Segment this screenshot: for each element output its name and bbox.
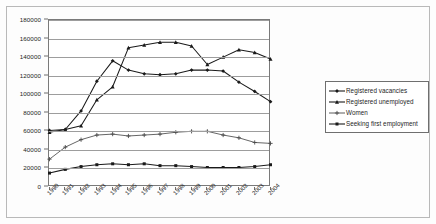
legend-item-label: Women: [346, 108, 368, 118]
legend-item-label: Seeking first employment: [346, 119, 418, 129]
gridline: [49, 76, 269, 77]
y-axis-tick-label: 180000: [20, 16, 41, 23]
data-point-plus: [142, 133, 146, 137]
legend-marker-triangle-icon: [328, 97, 346, 107]
gridline: [49, 94, 269, 95]
gridline: [49, 150, 269, 151]
data-point-diamond: [205, 68, 209, 72]
gridline: [49, 168, 269, 169]
data-point-square: [48, 172, 51, 175]
y-axis-tick-label: 60000: [23, 127, 41, 134]
data-point-square: [95, 163, 98, 166]
chart-figure: 1800001600001400001200001000008000060000…: [0, 0, 436, 224]
y-axis-tick-label: 20000: [23, 164, 41, 171]
legend-marker-square-icon: [328, 119, 346, 129]
data-point-square: [336, 122, 339, 125]
series-1: [48, 59, 273, 132]
legend-item[interactable]: Seeking first employment: [328, 118, 425, 129]
series-2: [48, 40, 273, 134]
data-point-plus: [221, 133, 225, 137]
x-axis: 1990199119921993199419951996199719981999…: [48, 187, 270, 221]
data-point-square: [143, 162, 146, 165]
legend-item-label: Registered vacancies: [346, 86, 407, 96]
gridline: [49, 20, 269, 21]
legend-item[interactable]: Registered vacancies: [328, 85, 425, 96]
legend-marker-diamond-icon: [328, 86, 346, 96]
y-axis-tick-label: 80000: [23, 108, 41, 115]
y-axis-tick-label: 160000: [20, 34, 41, 41]
data-point-plus: [95, 133, 99, 137]
data-point-square: [269, 163, 272, 166]
plot-area: [48, 19, 270, 186]
chart-legend: Registered vacanciesRegistered unemploye…: [325, 81, 429, 133]
gridline: [49, 131, 269, 132]
data-point-square: [127, 163, 130, 166]
y-axis-tick-label: 40000: [23, 145, 41, 152]
series-3: [47, 129, 272, 161]
y-axis-tick-label: 100000: [20, 90, 41, 97]
legend-item-label: Registered unemployed: [346, 97, 414, 107]
data-point-plus: [237, 136, 241, 140]
data-point-plus: [268, 141, 272, 145]
legend-item[interactable]: Registered unemployed: [328, 96, 425, 107]
data-point-diamond: [190, 68, 194, 72]
data-point-diamond: [335, 89, 339, 93]
data-point-plus: [335, 110, 339, 114]
data-point-triangle: [111, 85, 115, 89]
legend-marker-plus-icon: [328, 108, 346, 118]
data-point-plus: [79, 138, 83, 142]
y-axis-tick-label: 120000: [20, 71, 41, 78]
gridline: [49, 57, 269, 58]
legend-item[interactable]: Women: [328, 107, 425, 118]
series-layer: [49, 20, 271, 187]
series-line: [50, 61, 271, 131]
data-point-plus: [253, 140, 257, 144]
data-point-plus: [158, 132, 162, 136]
y-axis: 1800001600001400001200001000008000060000…: [0, 0, 48, 190]
data-point-plus: [111, 132, 115, 136]
y-axis-tick-label: 0: [37, 183, 41, 190]
data-point-plus: [126, 134, 130, 138]
data-point-square: [111, 162, 114, 165]
gridline: [49, 39, 269, 40]
gridline: [49, 113, 269, 114]
y-axis-tick-label: 140000: [20, 53, 41, 60]
